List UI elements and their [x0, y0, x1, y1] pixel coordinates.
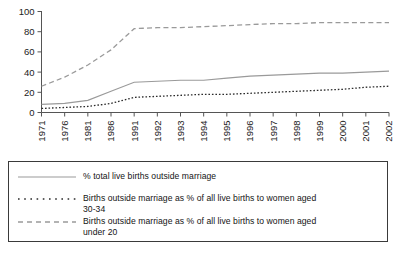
svg-text:1993: 1993	[175, 121, 186, 142]
svg-text:1996: 1996	[244, 121, 255, 142]
svg-text:1992: 1992	[152, 121, 163, 142]
svg-text:1998: 1998	[291, 121, 302, 142]
svg-text:1995: 1995	[221, 121, 232, 142]
line-chart: 0204060801001971197619811986199119921993…	[0, 0, 398, 152]
svg-text:1997: 1997	[268, 121, 279, 142]
chart-area: 0204060801001971197619811986199119921993…	[0, 0, 398, 152]
legend-item-total: % total live births outside marriage	[17, 171, 216, 183]
legend-label-aged-30-34: Births outside marriage as % of all live…	[83, 193, 316, 214]
svg-text:80: 80	[24, 26, 35, 37]
svg-text:20: 20	[24, 87, 35, 98]
svg-text:2000: 2000	[337, 121, 348, 142]
legend-label-total: % total live births outside marriage	[83, 171, 216, 182]
legend-label-aged-under-20: Births outside marriage as % of all live…	[83, 216, 316, 237]
svg-text:60: 60	[24, 46, 35, 57]
svg-text:1991: 1991	[129, 121, 140, 142]
svg-text:2002: 2002	[383, 121, 394, 142]
svg-text:1999: 1999	[314, 121, 325, 142]
solid-line-sample	[17, 171, 77, 183]
svg-text:1986: 1986	[105, 121, 116, 142]
svg-text:40: 40	[24, 67, 35, 78]
svg-text:1994: 1994	[198, 121, 209, 142]
legend-item-aged-under-20: Births outside marriage as % of all live…	[17, 216, 316, 237]
svg-text:0: 0	[29, 107, 34, 118]
dashed-line-sample	[17, 216, 77, 228]
chart-legend: % total live births outside marriage Bir…	[8, 161, 388, 242]
svg-text:100: 100	[19, 6, 35, 17]
svg-text:1981: 1981	[82, 121, 93, 142]
legend-item-aged-30-34: Births outside marriage as % of all live…	[17, 193, 316, 214]
svg-text:1976: 1976	[59, 121, 70, 142]
dotted-line-sample	[17, 193, 77, 205]
svg-text:2001: 2001	[360, 121, 371, 142]
svg-text:1971: 1971	[36, 121, 47, 142]
